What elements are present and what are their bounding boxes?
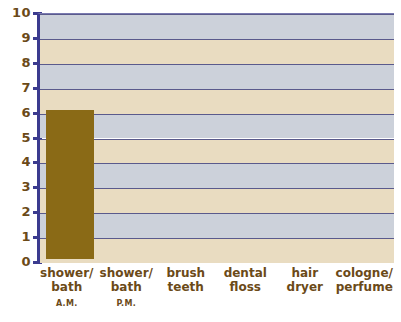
x-category-sublabel-1: P.M. (97, 299, 157, 308)
x-category-label-0: shower/bathA.M. (37, 266, 97, 308)
x-category-label-4: hairdryer (275, 266, 335, 294)
y-tick-label-9: 9 (0, 33, 31, 43)
y-tick-label-2: 2 (0, 207, 31, 217)
x-category-line-0-1: bath (37, 280, 97, 294)
x-category-line-5-0: cologne/ (335, 266, 395, 280)
y-tick-label-1: 1 (0, 232, 31, 242)
y-tick-label-5: 5 (0, 133, 31, 143)
y-tick-label-10: 10 (0, 8, 31, 18)
x-category-label-1: shower/bathP.M. (97, 266, 157, 308)
x-category-sublabel-0: A.M. (37, 299, 97, 308)
x-category-line-2-1: teeth (156, 280, 216, 294)
y-tick-label-3: 3 (0, 182, 31, 192)
y-axis-labels: 109876543210 (0, 13, 31, 262)
x-category-line-2-0: brush (156, 266, 216, 280)
y-tick-label-7: 7 (0, 83, 31, 93)
bars-layer (40, 14, 394, 259)
x-category-line-3-1: floss (216, 280, 276, 294)
x-category-line-5-1: perfume (335, 280, 395, 294)
y-tick-label-6: 6 (0, 108, 31, 118)
y-tick-label-8: 8 (0, 58, 31, 68)
y-tick-label-0: 0 (0, 257, 31, 267)
x-category-label-3: dentalfloss (216, 266, 276, 294)
x-category-line-1-1: bath (97, 280, 157, 294)
x-category-line-4-0: hair (275, 266, 335, 280)
y-tick-label-4: 4 (0, 157, 31, 167)
x-category-line-1-0: shower/ (97, 266, 157, 280)
x-category-line-4-1: dryer (275, 280, 335, 294)
x-category-label-5: cologne/perfume (335, 266, 395, 294)
plot-area (37, 13, 394, 262)
bar-0[interactable] (46, 110, 94, 259)
x-category-label-2: brushteeth (156, 266, 216, 294)
x-axis-labels: shower/bathA.M.shower/bathP.M.brushteeth… (37, 266, 394, 322)
x-category-line-0-0: shower/ (37, 266, 97, 280)
x-category-line-3-0: dental (216, 266, 276, 280)
bar-chart: 109876543210 shower/bathA.M.shower/bathP… (0, 0, 401, 322)
